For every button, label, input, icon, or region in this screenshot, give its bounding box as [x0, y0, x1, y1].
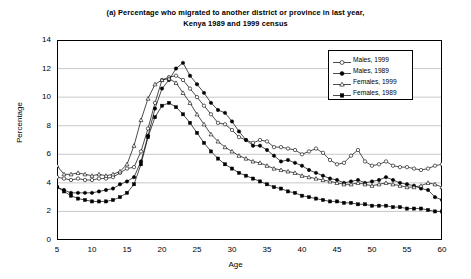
- y-tick-label: 12: [29, 65, 51, 73]
- data-point: [419, 168, 422, 171]
- data-point: [97, 172, 101, 176]
- chart-title-line1: (a) Percentage who migrated to another d…: [0, 7, 471, 18]
- data-point: [111, 198, 114, 201]
- data-point: [244, 138, 247, 141]
- y-tick-label: 8: [29, 122, 51, 130]
- data-point: [209, 101, 212, 104]
- data-point: [440, 163, 442, 166]
- data-point: [104, 188, 107, 191]
- data-point: [335, 163, 338, 166]
- data-point: [286, 147, 289, 150]
- data-point: [314, 197, 317, 200]
- data-point: [349, 154, 352, 157]
- data-point: [237, 171, 240, 174]
- data-point: [188, 87, 191, 90]
- data-point: [293, 161, 296, 164]
- data-point: [349, 201, 352, 204]
- data-point: [363, 160, 366, 163]
- data-point: [300, 164, 303, 167]
- data-point: [76, 197, 79, 200]
- legend-label: Males, 1999: [352, 54, 389, 65]
- legend-item-1: Males, 1999: [332, 54, 412, 65]
- data-point: [307, 168, 310, 171]
- legend-item-2: Males, 1989: [332, 65, 412, 76]
- data-point: [230, 128, 233, 131]
- data-point: [188, 74, 191, 77]
- data-point: [174, 74, 177, 77]
- y-tick-label: 0: [29, 236, 51, 244]
- x-tick-label: 50: [360, 246, 384, 254]
- data-point: [279, 145, 282, 148]
- data-point: [412, 207, 415, 210]
- data-point: [244, 174, 247, 177]
- data-point: [272, 145, 275, 148]
- x-tick-label: 5: [45, 246, 69, 254]
- legend-label: Females, 1999: [352, 76, 397, 87]
- data-point: [125, 167, 128, 170]
- data-point: [300, 194, 303, 197]
- x-axis-label: Age: [0, 260, 471, 269]
- data-point: [384, 175, 387, 178]
- data-point: [384, 160, 387, 163]
- data-point: [153, 101, 156, 104]
- x-tick-label: 15: [115, 246, 139, 254]
- data-point: [132, 183, 135, 186]
- data-point: [286, 158, 289, 161]
- data-point: [258, 144, 261, 147]
- data-point: [258, 138, 261, 141]
- data-point: [90, 200, 93, 203]
- data-point: [57, 175, 59, 178]
- data-point: [195, 131, 198, 134]
- data-point: [97, 200, 100, 203]
- data-point: [223, 123, 226, 126]
- legend-item-3: Females, 1999: [332, 76, 412, 87]
- data-point: [370, 204, 373, 207]
- data-point: [125, 180, 128, 183]
- data-point: [174, 67, 177, 70]
- data-point: [118, 183, 121, 186]
- legend-item-4: Females, 1989: [332, 87, 412, 98]
- data-point: [76, 191, 79, 194]
- data-point: [181, 78, 184, 81]
- data-point: [328, 200, 331, 203]
- filled-circle-icon: [332, 65, 352, 76]
- data-point: [202, 91, 205, 94]
- data-point: [237, 135, 240, 138]
- data-point: [83, 178, 86, 181]
- data-point: [160, 104, 163, 107]
- data-point: [405, 207, 408, 210]
- chart-figure: (a) Percentage who migrated to another d…: [0, 0, 471, 279]
- data-point: [384, 204, 387, 207]
- x-tick-label: 25: [185, 246, 209, 254]
- data-point: [97, 177, 100, 180]
- data-point: [426, 167, 429, 170]
- data-point: [279, 160, 282, 163]
- data-point: [153, 107, 156, 110]
- data-point: [321, 198, 324, 201]
- data-point: [181, 61, 184, 64]
- data-point: [62, 177, 65, 180]
- data-point: [69, 178, 72, 181]
- data-point: [300, 153, 303, 156]
- data-point: [321, 151, 324, 154]
- open-triangle-icon: [332, 76, 352, 87]
- data-point: [209, 150, 212, 153]
- data-point: [174, 81, 178, 85]
- data-point: [433, 195, 436, 198]
- data-point: [398, 165, 401, 168]
- data-point: [370, 164, 373, 167]
- data-point: [426, 188, 429, 191]
- y-tick-label: 6: [29, 150, 51, 158]
- data-point: [132, 144, 136, 148]
- data-point: [440, 198, 442, 201]
- y-tick-label: 14: [29, 36, 51, 44]
- data-point: [118, 196, 121, 199]
- data-point: [202, 141, 205, 144]
- data-point: [391, 178, 394, 181]
- data-point: [57, 186, 59, 189]
- data-point: [125, 162, 129, 166]
- data-point: [342, 201, 345, 204]
- data-point: [76, 171, 80, 175]
- x-tick-label: 20: [150, 246, 174, 254]
- data-point: [146, 136, 149, 139]
